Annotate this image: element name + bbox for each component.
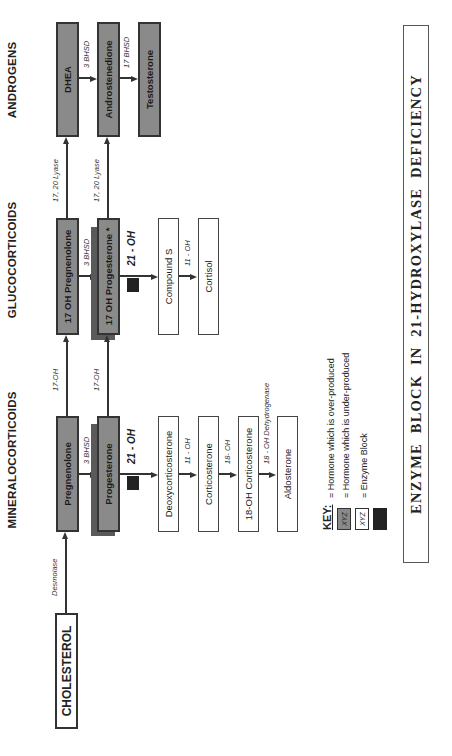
- enzyme-17bhsd: 17 BHSD: [122, 37, 131, 68]
- key-label-underproduced: = Hormone which is under-produced: [341, 353, 351, 498]
- node-17oh-pregnenolone: 17 OH Pregnenolone: [56, 218, 79, 335]
- heading-mineralocorticoids: MINERALOCORTICOIDS: [6, 391, 18, 528]
- arrow-icon: [151, 472, 158, 478]
- connector-prog-deoxycorticosterone: [120, 474, 153, 476]
- steroid-pathway-diagram: MINERALOCORTICOIDS GLUCOCORTICOIDS ANDRO…: [0, 0, 452, 756]
- arrow-icon: [190, 274, 197, 280]
- enzyme-17oh-a: 17-OH: [51, 369, 60, 391]
- node-compound-s: Compound S: [158, 218, 179, 335]
- node-cholesterol: CHOLESTEROL: [55, 613, 78, 729]
- enzyme-3bhsd-b: 3 BHSD: [82, 239, 91, 266]
- arrow-icon: [190, 472, 197, 478]
- node-aldosterone: Aldosterone: [277, 416, 298, 532]
- connector-prog-17ohprog: [107, 341, 109, 416]
- key-swatch-overproduced: XYZ: [337, 508, 351, 530]
- enzyme-block-21oh-a: [127, 476, 139, 490]
- key-label-enzyme-block: = Enzyme Block: [359, 433, 369, 498]
- enzyme-desmolase: Desmolase: [50, 558, 59, 596]
- enzyme-18oh: 18- OH: [223, 440, 232, 464]
- enzyme-11oh-a: 11 - OH: [183, 438, 192, 464]
- arrow-icon: [151, 274, 158, 280]
- key-label-overproduced: = Hormone which is over-produced: [326, 358, 336, 498]
- key-swatch-underproduced: XYZ: [355, 508, 369, 530]
- connector-cholesterol-pregnenolone: [65, 538, 67, 613]
- node-testosterone: Testosterone: [138, 22, 161, 137]
- enzyme-21oh-b: 21 - OH: [126, 231, 137, 266]
- enzyme-18oh-dehydrogenase: 18 - OH Dehydrogenase: [262, 383, 271, 464]
- connector-17ohprog-androstenedione: [107, 143, 109, 218]
- arrow-icon: [63, 335, 69, 342]
- arrow-icon: [131, 76, 138, 82]
- node-cortisol: Cortisol: [198, 218, 219, 335]
- enzyme-3bhsd-a: 3 BHSD: [82, 437, 91, 464]
- node-dhea: DHEA: [56, 22, 79, 137]
- node-pregnenolone: Pregnenolone: [56, 416, 79, 532]
- enzyme-11oh-b: 11 - OH: [183, 240, 192, 266]
- enzyme-lyase-a: 17, 20 Lyase: [51, 159, 60, 202]
- heading-glucocorticoids: GLUCOCORTICOIDS: [6, 202, 18, 319]
- node-progesterone: Progesterone: [97, 416, 120, 532]
- arrow-icon: [104, 137, 110, 144]
- node-18oh-corticosterone: 18-OH Corticosterone: [238, 416, 259, 532]
- arrow-icon: [63, 137, 69, 144]
- connector-preg-17ohpreg: [66, 341, 68, 416]
- enzyme-lyase-b: 17, 20 Lyase: [92, 159, 101, 202]
- enzyme-17oh-b: 17-OH: [92, 369, 101, 391]
- diagram-title: ENZYME BLOCK IN 21-HYDROXYLASE DEFICIENC…: [403, 25, 429, 563]
- enzyme-3bhsd-c: 3 BHSD: [82, 41, 91, 68]
- enzyme-block-21oh-b: [127, 278, 139, 292]
- node-androstenedione: Androstenedione: [97, 22, 120, 137]
- heading-androgens: ANDROGENS: [6, 42, 18, 119]
- arrow-icon: [90, 76, 97, 82]
- key-swatch-enzyme-block: [373, 508, 387, 530]
- key-title: KEY:: [321, 505, 333, 530]
- arrow-icon: [269, 472, 276, 478]
- node-17oh-progesterone: 17 OH Progesterone *: [97, 218, 120, 335]
- arrow-icon: [104, 335, 110, 342]
- enzyme-21oh-a: 21 - OH: [126, 429, 137, 464]
- arrow-icon: [230, 472, 237, 478]
- arrow-icon: [62, 532, 68, 539]
- connector-17ohpreg-dhea: [66, 143, 68, 218]
- node-corticosterone: Corticosterone: [198, 416, 219, 532]
- node-deoxycorticosterone: Deoxycorticosterone: [158, 416, 179, 532]
- connector-17ohprog-compound-s: [120, 276, 153, 278]
